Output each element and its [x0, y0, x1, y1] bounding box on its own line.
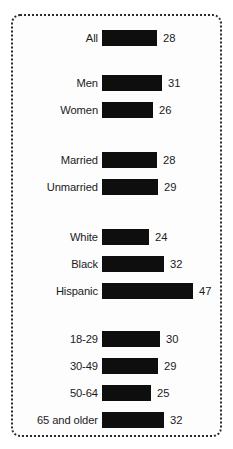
bar-category-label: Married — [0, 151, 98, 169]
bar-fill — [102, 331, 160, 347]
bar-track — [102, 74, 162, 92]
bar-value-label: 26 — [159, 101, 171, 119]
bar-track — [102, 384, 151, 402]
bar-track — [102, 101, 153, 119]
bar-value-label: 47 — [199, 282, 211, 300]
bar-fill — [102, 358, 158, 374]
bar-track — [102, 228, 149, 246]
bar-fill — [102, 229, 149, 245]
bar-row: Unmarried29 — [0, 178, 233, 196]
bar-row: White24 — [0, 228, 233, 246]
bar-chart: All28Men31Women26Married28Unmarried29Whi… — [0, 0, 233, 449]
bar-value-label: 32 — [170, 255, 182, 273]
bar-track — [102, 411, 164, 429]
bar-row: Hispanic47 — [0, 282, 233, 300]
bar-track — [102, 282, 193, 300]
bar-fill — [102, 152, 157, 168]
bar-value-label: 24 — [155, 228, 167, 246]
bar-category-label: Unmarried — [0, 178, 98, 196]
bar-track — [102, 357, 158, 375]
bar-fill — [102, 256, 164, 272]
bar-value-label: 28 — [163, 151, 175, 169]
bar-row: Married28 — [0, 151, 233, 169]
bar-track — [102, 151, 157, 169]
bar-value-label: 28 — [163, 29, 175, 47]
bar-value-label: 29 — [164, 178, 176, 196]
bar-fill — [102, 283, 193, 299]
bar-value-label: 30 — [166, 330, 178, 348]
bar-category-label: Hispanic — [0, 282, 98, 300]
bar-value-label: 31 — [168, 74, 180, 92]
bar-fill — [102, 75, 162, 91]
bar-category-label: Black — [0, 255, 98, 273]
bar-track — [102, 29, 157, 47]
bar-track — [102, 255, 164, 273]
bar-row: 30-4929 — [0, 357, 233, 375]
bar-value-label: 29 — [164, 357, 176, 375]
bar-fill — [102, 385, 151, 401]
bar-row: Black32 — [0, 255, 233, 273]
bar-row: 65 and older32 — [0, 411, 233, 429]
bar-fill — [102, 179, 158, 195]
bar-row: 50-6425 — [0, 384, 233, 402]
bar-fill — [102, 102, 153, 118]
bar-category-label: All — [0, 29, 98, 47]
bar-category-label: Men — [0, 74, 98, 92]
bar-category-label: Women — [0, 101, 98, 119]
bar-category-label: 18-29 — [0, 330, 98, 348]
bar-fill — [102, 412, 164, 428]
bar-category-label: White — [0, 228, 98, 246]
bar-value-label: 32 — [170, 411, 182, 429]
bar-row: Women26 — [0, 101, 233, 119]
bar-row: 18-2930 — [0, 330, 233, 348]
bar-fill — [102, 30, 157, 46]
bar-category-label: 30-49 — [0, 357, 98, 375]
bar-track — [102, 330, 160, 348]
bar-value-label: 25 — [157, 384, 169, 402]
bar-row: Men31 — [0, 74, 233, 92]
bar-category-label: 65 and older — [0, 411, 98, 429]
bar-track — [102, 178, 158, 196]
bar-row: All28 — [0, 29, 233, 47]
bar-category-label: 50-64 — [0, 384, 98, 402]
